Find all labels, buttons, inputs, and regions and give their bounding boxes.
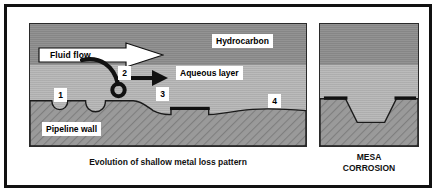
- stage-marker-3: 3: [156, 87, 169, 101]
- hydrocarbon-label: Hydrocarbon: [212, 34, 273, 48]
- main-diagram-panel: Fluid flow Hydrocarbon Aqueous layer Pip…: [29, 23, 307, 147]
- mesa-pit-profile: [320, 24, 418, 146]
- figure-root: Fluid flow Hydrocarbon Aqueous layer Pip…: [0, 0, 436, 192]
- main-panel-caption: Evolution of shallow metal loss pattern: [29, 157, 307, 168]
- stage-marker-4: 4: [268, 94, 281, 108]
- mesa-panel-caption: MESA CORROSION: [319, 152, 419, 173]
- stage-marker-1: 1: [54, 88, 67, 102]
- figure-frame: Fluid flow Hydrocarbon Aqueous layer Pip…: [4, 4, 432, 188]
- mesa-caption-line2: CORROSION: [319, 163, 419, 174]
- mesa-corrosion-panel: [319, 23, 419, 147]
- main-caption-text: Evolution of shallow metal loss pattern: [89, 157, 247, 167]
- mesa-caption-line1: MESA: [319, 152, 419, 163]
- stage-marker-2: 2: [118, 66, 131, 80]
- pipeline-wall-label: Pipeline wall: [42, 122, 101, 136]
- aqueous-layer-label: Aqueous layer: [176, 66, 243, 80]
